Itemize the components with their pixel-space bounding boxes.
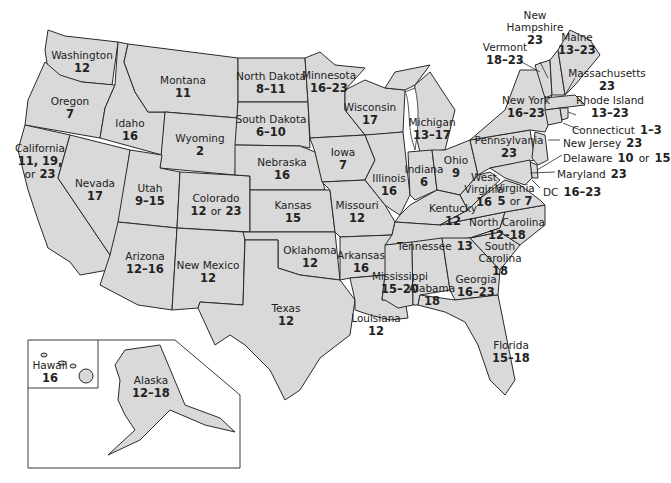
- label-pennsylvania: Pennsylvania23: [475, 135, 544, 160]
- label-kansas: Kansas15: [274, 200, 311, 225]
- label-wyoming: Wyoming2: [175, 133, 224, 158]
- label-wisconsin: Wisconsin17: [344, 102, 396, 127]
- label-nebraska: Nebraska16: [257, 157, 307, 182]
- label-south-carolina: SouthCarolina18: [478, 241, 521, 277]
- label-utah: Utah9–15: [135, 183, 165, 208]
- state-alaska[interactable]: [108, 345, 235, 455]
- label-alaska: Alaska12–18: [132, 375, 170, 400]
- state-rhode-island[interactable]: [560, 108, 568, 120]
- label-south-dakota: South Dakota6–10: [235, 114, 306, 139]
- label-oregon: Oregon7: [51, 96, 90, 121]
- label-colorado: Colorado12 or 23: [191, 193, 242, 218]
- label-new-hampshire: NewHampshire23: [507, 10, 564, 46]
- label-rhode-island: Rhode Island13–23: [576, 95, 644, 120]
- hawaii-island: [79, 369, 93, 383]
- label-maine: Maine13–23: [558, 32, 596, 57]
- label-idaho: Idaho16: [115, 118, 144, 143]
- label-texas: Texas12: [271, 303, 300, 328]
- label-washington: Washington12: [51, 50, 113, 75]
- label-missouri: Missouri12: [335, 200, 378, 225]
- label-maryland: Maryland 23: [557, 164, 627, 182]
- label-massachusetts: Massachusetts23: [568, 68, 646, 93]
- label-north-dakota: North Dakota8–11: [236, 71, 306, 96]
- label-illinois: Illinois16: [372, 173, 405, 198]
- label-oklahoma: Oklahoma12: [283, 245, 336, 270]
- label-michigan: Michigan13–17: [408, 117, 455, 142]
- label-california: California11, 19,or 23: [15, 143, 65, 181]
- label-louisiana: Louisiana12: [351, 313, 401, 338]
- label-minnesota: Minnesota16–23: [302, 70, 356, 95]
- label-tennessee: Tennessee 13: [397, 236, 473, 254]
- label-new-york: New York16–23: [502, 95, 550, 120]
- label-indiana: Indiana6: [405, 164, 444, 189]
- label-west-virginia: WestVirginia16: [464, 172, 504, 208]
- label-alabama: Alabama18: [409, 283, 455, 308]
- label-nevada: Nevada17: [75, 178, 115, 203]
- label-florida: Florida15–18: [492, 340, 530, 365]
- label-iowa: Iowa7: [331, 147, 356, 172]
- label-montana: Montana11: [160, 75, 206, 100]
- label-arizona: Arizona12–16: [125, 251, 164, 276]
- label-north-carolina: North Carolina12–18: [469, 217, 545, 242]
- label-hawaii: Hawaii16: [32, 360, 67, 385]
- label-dc: DC 16–23: [543, 182, 601, 200]
- label-new-mexico: New Mexico12: [177, 260, 240, 285]
- label-georgia: Georgia16–23: [455, 274, 496, 299]
